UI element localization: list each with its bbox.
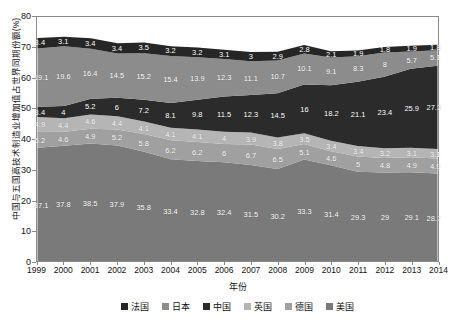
legend-swatch-icon-中国	[203, 303, 210, 310]
x-tick-label-2014: 2014	[429, 265, 448, 275]
data-label-英国-2000: 4.4	[58, 120, 68, 129]
data-label-中国-2009: 16	[300, 104, 308, 113]
data-label-法国-2014: 1.8	[430, 42, 440, 51]
legend-swatch-icon-日本	[162, 303, 169, 310]
data-label-中国-1999: 3.4	[35, 107, 45, 116]
plot-area	[36, 16, 439, 262]
data-label-日本-2013: 5.7	[406, 55, 416, 64]
data-label-德国-2004: 6.2	[165, 145, 175, 154]
x-tick-mark-2003	[144, 262, 145, 265]
legend-item-德国[interactable]: 德国	[285, 300, 313, 313]
data-label-美国-2014: 28.7	[427, 213, 442, 222]
data-label-日本-2011: 8.3	[353, 64, 363, 73]
legend-item-中国[interactable]: 中国	[203, 300, 231, 313]
data-label-德国-2002: 5.2	[112, 133, 122, 142]
y-tick-mark-0	[32, 262, 36, 263]
data-label-德国-2008: 6.5	[272, 155, 282, 164]
x-axis-title: 年份	[36, 280, 439, 293]
data-label-法国-2006: 3.1	[219, 49, 229, 58]
data-label-美国-1999: 37.1	[34, 200, 49, 209]
data-label-美国-2007: 31.5	[244, 209, 259, 218]
chart-legend: 法国日本中国英国德国美国	[0, 300, 475, 313]
data-label-美国-2008: 30.2	[270, 211, 285, 220]
data-label-英国-1999: 4.9	[35, 120, 45, 129]
data-label-英国-2012: 3.2	[380, 149, 390, 158]
data-label-中国-2002: 6	[115, 102, 119, 111]
data-label-中国-2001: 5.2	[85, 102, 95, 111]
legend-item-法国[interactable]: 法国	[121, 300, 149, 313]
data-label-英国-2010: 3.4	[326, 142, 336, 151]
y-tick-label-70: 70	[21, 42, 31, 51]
data-label-中国-2013: 25.9	[404, 104, 419, 113]
legend-label-法国: 法国	[131, 300, 149, 313]
x-tick-label-2010: 2010	[322, 265, 341, 275]
data-label-法国-2010: 2.1	[326, 49, 336, 58]
data-label-中国-2012: 23.4	[378, 108, 393, 117]
data-label-英国-2009: 3.5	[299, 134, 309, 143]
x-tick-label-2012: 2012	[375, 265, 394, 275]
data-label-中国-2011: 21.1	[351, 109, 366, 118]
data-label-法国-1999: 3.4	[35, 38, 45, 47]
x-tick-mark-2002	[117, 262, 118, 265]
stacked-area-svg	[37, 17, 438, 261]
data-label-日本-2000: 19.6	[56, 71, 71, 80]
data-label-英国-2007: 3.9	[246, 134, 256, 143]
data-label-德国-2005: 6.2	[192, 147, 202, 156]
legend-swatch-icon-德国	[285, 303, 292, 310]
x-tick-mark-2011	[358, 262, 359, 265]
y-tick-label-60: 60	[21, 73, 31, 82]
data-label-日本-2005: 13.9	[190, 73, 205, 82]
x-tick-label-2007: 2007	[241, 265, 260, 275]
y-tick-label-30: 30	[21, 165, 31, 174]
legend-item-日本[interactable]: 日本	[162, 300, 190, 313]
data-label-美国-2004: 33.4	[163, 206, 178, 215]
x-tick-label-2013: 2013	[402, 265, 421, 275]
data-label-英国-2003: 4.1	[138, 123, 148, 132]
data-label-德国-2001: 4.9	[85, 132, 95, 141]
data-label-日本-2014: 5.1	[430, 53, 440, 62]
x-tick-label-2003: 2003	[134, 265, 153, 275]
x-tick-label-1999: 1999	[27, 265, 46, 275]
data-label-日本-2004: 15.4	[163, 75, 178, 84]
legend-item-英国[interactable]: 英国	[244, 300, 272, 313]
data-label-德国-2012: 4.8	[380, 161, 390, 170]
data-label-德国-1999: 5.2	[35, 135, 45, 144]
data-label-德国-2013: 4.9	[406, 160, 416, 169]
data-label-法国-2004: 3.2	[165, 46, 175, 55]
legend-label-德国: 德国	[295, 300, 313, 313]
data-label-美国-2000: 37.8	[56, 199, 71, 208]
x-tick-label-2008: 2008	[268, 265, 287, 275]
data-label-中国-2008: 14.5	[270, 111, 285, 120]
data-label-法国-2008: 2.9	[272, 51, 282, 60]
data-label-德国-2000: 4.6	[58, 134, 68, 143]
y-axis-ticks: 01020304050607080	[0, 0, 36, 327]
legend-label-日本: 日本	[172, 300, 190, 313]
y-tick-label-20: 20	[21, 196, 31, 205]
legend-label-中国: 中国	[213, 300, 231, 313]
data-label-美国-2006: 32.4	[217, 208, 232, 217]
data-label-美国-2002: 37.9	[110, 199, 125, 208]
x-tick-mark-2010	[331, 262, 332, 265]
data-label-中国-2003: 7.2	[138, 106, 148, 115]
x-tick-label-2002: 2002	[107, 265, 126, 275]
data-label-德国-2010: 4.6	[326, 154, 336, 163]
data-label-德国-2006: 6	[222, 149, 226, 158]
data-label-日本-2007: 11.1	[244, 73, 258, 82]
data-label-中国-2006: 11.5	[217, 109, 231, 118]
legend-swatch-icon-法国	[121, 303, 128, 310]
x-tick-mark-2007	[251, 262, 252, 265]
x-tick-label-2011: 2011	[349, 265, 367, 275]
y-tick-label-80: 80	[21, 12, 31, 21]
x-tick-mark-2001	[90, 262, 91, 265]
legend-item-美国[interactable]: 美国	[326, 300, 354, 313]
y-tick-label-10: 10	[21, 227, 31, 236]
data-label-日本-2010: 9.1	[326, 66, 336, 75]
data-label-德国-2007: 6.7	[246, 150, 256, 159]
x-tick-mark-2005	[197, 262, 198, 265]
data-label-英国-2008: 3.8	[272, 139, 282, 148]
data-label-美国-2013: 29.1	[404, 213, 419, 222]
data-label-德国-2011: 5	[356, 160, 360, 169]
legend-swatch-icon-美国	[326, 303, 333, 310]
data-label-日本-2002: 14.5	[110, 71, 125, 80]
x-tick-mark-2006	[224, 262, 225, 265]
